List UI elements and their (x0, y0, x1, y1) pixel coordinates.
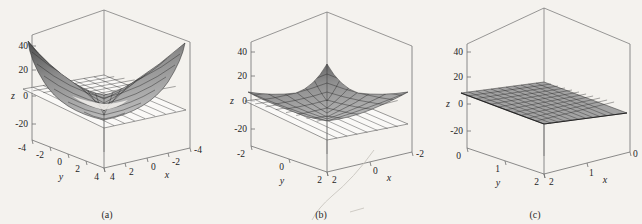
y-tick-label: 4 (94, 172, 99, 182)
x-tick-label: -2 (172, 157, 180, 167)
x-tick-label: 1 (589, 168, 594, 178)
panel-c-caption: (c) (428, 209, 642, 220)
y-tick-label: -2 (36, 150, 44, 160)
x-tick-label: 2 (549, 177, 554, 187)
plot-a-x-axis: 4 2 0 -2 -4 x (104, 145, 202, 182)
y-tick-label: 2 (534, 177, 539, 187)
plot-panel-a: 40 20 0 -20 z (0, 0, 214, 224)
y-axis-label: y (279, 175, 285, 186)
y-tick-label: 0 (279, 162, 284, 172)
z-tick-label: -20 (234, 124, 247, 134)
z-axis-label: z (10, 90, 15, 101)
z-axis-label: z (229, 95, 234, 106)
plot-c-y-axis: 0 1 2 y (456, 148, 545, 188)
z-tick-label: 40 (454, 47, 464, 57)
x-tick-label: -4 (194, 145, 202, 155)
y-axis-label: y (495, 177, 501, 188)
plot-c-canvas: 40 20 0 -20 z (428, 0, 642, 224)
y-tick-label: -2 (237, 149, 245, 159)
plot-a-y-axis: -4 -2 0 2 4 y (18, 140, 105, 182)
x-tick-label: 2 (332, 175, 337, 185)
x-axis-label: x (164, 169, 170, 180)
three-panel-surface-figure: 40 20 0 -20 z (0, 0, 642, 224)
z-tick-label: -20 (15, 119, 28, 129)
y-tick-label: 0 (456, 151, 461, 161)
y-tick-label: 2 (317, 175, 322, 185)
y-tick-label: 2 (75, 164, 80, 174)
x-axis-label: x (386, 172, 392, 183)
x-tick-label: 0 (633, 149, 638, 159)
panel-b-caption: (b) (214, 209, 428, 220)
z-tick-label: 20 (19, 65, 29, 75)
z-tick-label: -20 (450, 126, 463, 136)
x-tick-label: -2 (416, 149, 424, 159)
z-tick-label: 40 (238, 47, 248, 57)
z-tick-label: 0 (458, 99, 463, 109)
x-axis-label: x (602, 174, 608, 185)
plot-panel-b: 40 20 0 -20 z (214, 0, 428, 224)
plot-panel-c: 40 20 0 -20 z (428, 0, 642, 224)
plot-b-canvas: 40 20 0 -20 z (214, 0, 428, 224)
panel-a-caption: (a) (0, 209, 214, 220)
plot-b-x-axis: 2 0 -2 x (327, 149, 424, 185)
plot-c-x-axis: 2 1 0 x (544, 149, 638, 187)
x-tick-label: 0 (151, 162, 156, 172)
plot-b-y-axis: -2 0 2 y (237, 146, 328, 186)
z-axis-label: z (445, 98, 450, 109)
z-tick-label: 0 (23, 91, 28, 101)
x-tick-label: 4 (110, 172, 115, 182)
z-tick-label: 40 (19, 41, 29, 51)
y-axis-label: y (58, 171, 64, 182)
z-tick-label: 20 (238, 71, 248, 81)
y-tick-label: -4 (18, 143, 26, 153)
z-tick-label: 20 (454, 72, 464, 82)
x-tick-label: 2 (129, 167, 134, 177)
y-tick-label: 0 (57, 157, 62, 167)
y-tick-label: 1 (495, 164, 500, 174)
plot-a-canvas: 40 20 0 -20 z (0, 0, 214, 224)
x-tick-label: 0 (373, 166, 378, 176)
